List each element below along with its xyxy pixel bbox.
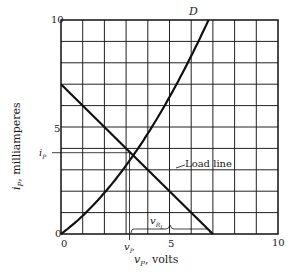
curve-label-d: D [189,7,198,17]
load-line-label: Load line [185,159,232,169]
chart-canvas [0,0,294,274]
y-tick-10: 10 [51,15,64,25]
ip-marker-label: iP [39,148,46,162]
load-line-leader [176,165,185,168]
y-tick-5: 5 [54,124,60,134]
ip-subscript: P [42,153,46,160]
vrl-brace [131,225,210,233]
x-axis-unit: , volts [145,253,178,266]
y-axis-unit: , milliamperes [10,102,23,181]
x-tick-0: 0 [61,239,67,249]
y-axis-subscript: P [17,182,25,187]
vrl-label: vRL [150,216,164,232]
x-tick-10: 10 [272,238,285,248]
vp-marker-label: vP [124,242,134,256]
vrl-sub-l: L [160,224,163,230]
y-axis-label: iP, milliamperes [10,102,25,190]
x-axis-label: vP, volts [134,255,178,269]
x-tick-5: 5 [168,239,174,249]
vrl-subscript: RL [156,221,164,228]
y-axis-var: i [10,186,23,190]
grid [61,20,278,234]
